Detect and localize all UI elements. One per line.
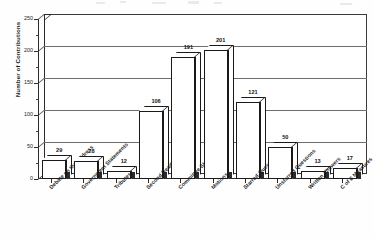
bar-value-label: 191 <box>173 45 203 51</box>
y-axis-label: 150 <box>11 80 33 85</box>
y-axis-minor-tick <box>36 131 39 132</box>
bar <box>204 50 228 179</box>
bar-chart: Number of Contributions 0501001502002502… <box>0 0 374 239</box>
y-axis-tick <box>34 115 38 116</box>
bar-value-label: 28 <box>76 149 106 155</box>
gridline <box>44 46 367 47</box>
bar-value-label: 201 <box>206 38 236 44</box>
y-axis-minor-tick <box>36 67 39 68</box>
bar-front-face <box>204 50 228 179</box>
y-axis-spine-front <box>38 19 39 179</box>
scan-artifact <box>152 2 166 4</box>
scan-artifact <box>96 2 105 4</box>
bar-value-label: 121 <box>238 90 268 96</box>
scan-artifact <box>188 1 199 4</box>
y-axis-label: 50 <box>11 144 33 149</box>
bar-value-label: 17 <box>335 156 365 162</box>
y-axis-label: 250 <box>11 16 33 21</box>
y-axis-title: Number of Contributions <box>14 10 21 110</box>
bar-front-face <box>139 111 163 179</box>
y-axis-minor-tick <box>36 99 39 100</box>
y-axis-tick <box>34 147 38 148</box>
y-axis-tick <box>34 19 38 20</box>
y-axis-tick <box>34 83 38 84</box>
bar-value-label: 50 <box>270 135 300 141</box>
bar-side-face <box>195 52 201 179</box>
bar <box>236 102 260 179</box>
y-axis-minor-tick <box>36 163 39 164</box>
bar-front-face <box>236 102 260 179</box>
y-axis-tick <box>34 179 38 180</box>
y-axis-label: 100 <box>11 112 33 117</box>
bar-value-label: 106 <box>141 99 171 105</box>
y-axis-label: 200 <box>11 48 33 53</box>
bar <box>139 111 163 179</box>
y-axis-minor-tick <box>36 35 39 36</box>
scan-artifact <box>214 2 222 4</box>
bar-value-label: 12 <box>109 159 139 165</box>
bar-side-face <box>228 45 234 179</box>
bar <box>171 57 195 179</box>
bar-front-face <box>171 57 195 179</box>
bar-value-label: 29 <box>44 148 74 154</box>
bar-base-shadow <box>229 172 232 179</box>
bar-base-shadow <box>132 172 135 179</box>
y-axis-tick <box>34 51 38 52</box>
y-axis-label: 0 <box>11 176 33 181</box>
scan-artifact <box>340 3 352 5</box>
bar-top-face <box>236 97 266 102</box>
scan-artifact <box>120 1 126 3</box>
